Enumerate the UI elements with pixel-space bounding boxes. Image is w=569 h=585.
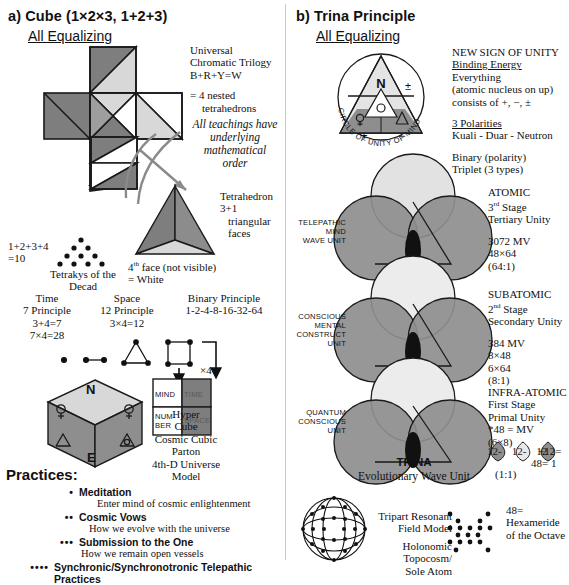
x4-label: ×4	[200, 364, 212, 376]
trina-title: TRINA	[368, 456, 460, 468]
stage-label-quantum: QUANTUM CONSCIOUS UNIT	[288, 408, 346, 435]
stage-info-atomic: ATOMIC 3rd Stage Tertiary Unity 3072 MV …	[488, 186, 569, 272]
stage-label-telepathic: TELEPATHIC MIND WAVE UNIT	[288, 218, 346, 245]
practice-item-meditation: • Meditation	[30, 486, 285, 498]
practice-name: Submission to the One	[79, 536, 193, 548]
tetraktys-dots	[56, 236, 106, 268]
hypercube-top-label: N	[86, 382, 95, 397]
left-panel-heading: a) Cube (1×2×3, 1+2+3)	[8, 8, 167, 24]
stage-info-infra-atomic: INFRA-ATOMIC First Stage Primal Unity *4…	[488, 386, 569, 448]
quad-label-time: TIME	[184, 390, 203, 399]
holonomic-sphere-figure	[296, 496, 372, 562]
practice-name: Synchronic/Synchronotronic Telepathic Pr…	[54, 561, 285, 585]
svg-text:±: ±	[405, 80, 411, 92]
left-panel-subheading: All Equalizing	[28, 28, 112, 44]
principle-space: Space 12 Principle 3×4=12	[84, 292, 170, 329]
tetraktys-equation: 1+2+3+4 =10	[8, 240, 49, 265]
tetrahedron-note: 4th face (not visible) = White	[128, 258, 216, 285]
right-panel-heading: b) Trina Principle	[296, 8, 415, 24]
practice-item-submission: ••• Submission to the One	[30, 536, 285, 548]
field-model-caption: Tripart Resonant Field Model Holonomic T…	[366, 510, 452, 577]
stage-label-conscious: CONSCIOUS MENTAL CONSTRUCT UNIT	[288, 312, 346, 348]
teaching-note: All teachings have underlying mathematic…	[190, 118, 280, 170]
right-panel-subheading: All Equalizing	[316, 28, 400, 44]
hexameride-dots	[444, 510, 504, 558]
practice-bullets: •	[30, 486, 79, 498]
trina-wave-stack	[348, 146, 478, 464]
practice-name: Meditation	[79, 486, 132, 498]
trina-equation-tail: +12=	[538, 445, 561, 457]
practice-bullets: •••	[30, 536, 79, 548]
trina-subtitle: Evolutionary Wave Unit	[348, 470, 480, 482]
panel-divider	[285, 4, 286, 560]
trina-equation-ratio: (1:1)	[495, 468, 516, 480]
quad-label-mind: MIND	[155, 390, 175, 399]
hypercube-bottom-label: E	[87, 450, 96, 465]
tetrahedron-label: Tetrahedron 3+1 triangular faces	[220, 190, 286, 240]
practice-name: Cosmic Vows	[79, 511, 147, 523]
trilogy-note: Universal Chromatic Trilogy B+R+Y=W = 4 …	[190, 44, 285, 114]
tetrahedron-figure	[132, 184, 218, 260]
stage-info-subatomic: SUBATOMIC 2nd Stage Secondary Unity 384 …	[488, 288, 569, 387]
practices-title: Practices:	[6, 466, 78, 483]
tetraktys-caption: Tetrakys of the Decad	[28, 268, 138, 293]
hypercube-caption: Hyper Cube Cosmic Cubic Parton 4th-D Uni…	[132, 408, 240, 482]
practice-bullets: ••	[30, 511, 79, 523]
practice-desc: How we remain open vessels	[30, 548, 285, 559]
practice-desc: Enter mind of cosmic enlightenment	[30, 498, 285, 509]
practice-desc: How we evolve with the universe	[30, 523, 285, 534]
hexameride-caption: 48= Hexameride of the Octave	[506, 504, 569, 541]
circle-of-unity-figure: N ± + − CIRCLE OF UNITY OF MIND	[326, 48, 436, 148]
svg-text:N: N	[376, 76, 385, 91]
principle-binary: Binary Principle 1-2-4-8-16-32-64	[164, 292, 284, 317]
practice-item-synchronic: •••• Synchronic/Synchronotronic Telepath…	[8, 561, 285, 585]
trina-equation-result: 48= 1	[531, 457, 556, 469]
practices-list: • Meditation Enter mind of cosmic enligh…	[30, 486, 285, 585]
practice-item-cosmic-vows: •• Cosmic Vows	[30, 511, 285, 523]
practice-bullets: ••••	[8, 561, 54, 585]
